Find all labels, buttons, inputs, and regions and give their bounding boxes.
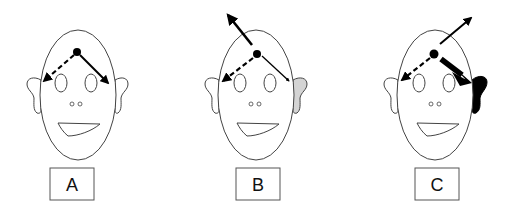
panel-label: B	[252, 175, 264, 195]
panel-label: C	[431, 175, 444, 195]
panel-label: A	[66, 175, 78, 195]
panel-c: C	[384, 18, 487, 200]
source-dot	[430, 50, 439, 59]
face-outline	[397, 30, 473, 160]
figure-canvas: A B C	[0, 0, 507, 210]
right-ear	[115, 78, 128, 113]
panel-a: A	[27, 30, 128, 200]
right-ear-highlighted	[293, 78, 307, 113]
left-ear	[27, 78, 41, 113]
panel-b: B	[205, 15, 307, 200]
left-ear	[384, 78, 398, 113]
right-ear-filled	[472, 76, 487, 113]
source-dot	[73, 48, 81, 56]
source-dot	[253, 50, 261, 58]
face-outline	[218, 30, 294, 160]
left-ear	[205, 78, 219, 113]
